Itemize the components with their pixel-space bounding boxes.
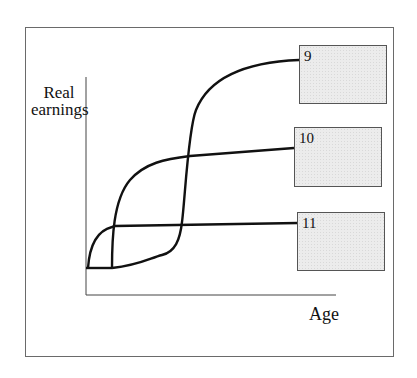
curve-11 [88,223,298,268]
y-axis-label-line1: Real [31,84,87,101]
answer-box-9[interactable]: 9 [299,45,387,104]
curve-9 [112,60,299,268]
y-axis-label-line2: earnings [31,101,87,118]
x-axis-label: Age [309,306,339,323]
y-axis-label: Real earnings [31,84,87,118]
box-number: 10 [299,130,314,147]
curve-10 [112,148,294,268]
answer-box-10[interactable]: 10 [294,127,382,187]
answer-box-11[interactable]: 11 [297,212,385,271]
box-number: 9 [304,48,312,65]
box-number: 11 [302,215,316,232]
